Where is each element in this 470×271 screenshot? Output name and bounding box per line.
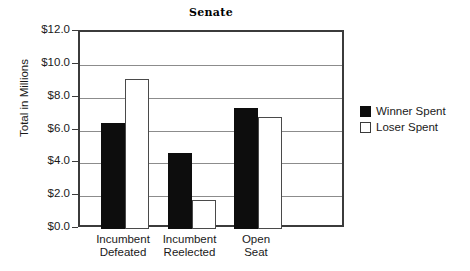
legend-item-loser-spent: Loser Spent (360, 119, 446, 135)
y-axis-tick-label: $12.0 (26, 23, 70, 35)
y-axis-tick-label: $10.0 (26, 56, 70, 68)
legend-swatch-winner-icon (360, 106, 371, 117)
gridline (80, 98, 342, 99)
gridline (80, 65, 342, 66)
x-axis-label-line-2: Seat (206, 246, 306, 259)
legend-swatch-loser-icon (360, 122, 371, 133)
plot-area (78, 30, 344, 227)
bar-winner (101, 123, 125, 229)
y-axis-tick-label: $4.0 (26, 154, 70, 166)
legend-label-loser: Loser Spent (376, 121, 438, 133)
bar-winner (234, 108, 258, 229)
bar-loser (258, 117, 282, 229)
chart-title: Senate (78, 6, 344, 19)
y-axis-tick-label: $2.0 (26, 187, 70, 199)
y-axis-tick-mark (72, 227, 78, 228)
y-axis-tick-label: $0.0 (26, 220, 70, 232)
x-axis-category-label: OpenSeat (206, 233, 306, 259)
bar-loser (125, 79, 149, 229)
bar-loser (192, 200, 216, 229)
legend-item-winner-spent: Winner Spent (360, 103, 446, 119)
x-axis-label-line-1: Open (242, 233, 270, 245)
legend-label-winner: Winner Spent (376, 105, 446, 117)
bar-winner (168, 153, 192, 229)
y-axis-tick-label: $6.0 (26, 122, 70, 134)
bar-chart: Senate Total in Millions $0.0$2.0$4.0$6.… (0, 0, 470, 271)
chart-legend: Winner Spent Loser Spent (360, 103, 446, 135)
y-axis-tick-label: $8.0 (26, 89, 70, 101)
